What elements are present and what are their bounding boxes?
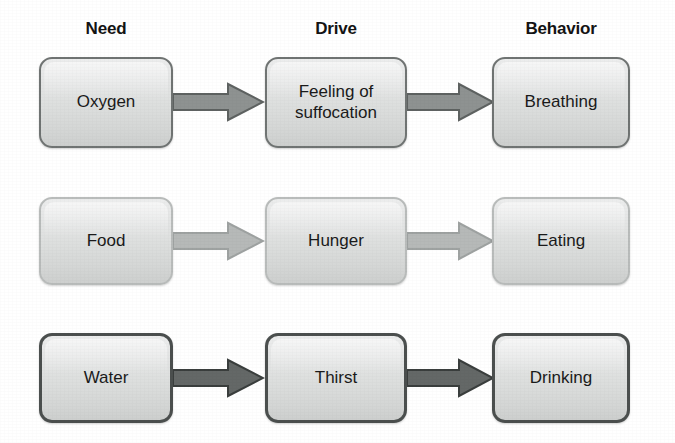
node-label: Hunger bbox=[302, 231, 370, 251]
node-behavior-drinking: Drinking bbox=[492, 333, 630, 423]
arrow-oxygen-to-suffocation bbox=[173, 82, 265, 122]
node-need-oxygen: Oxygen bbox=[39, 57, 173, 148]
node-behavior-breathing: Breathing bbox=[492, 57, 630, 148]
column-header-drive: Drive bbox=[265, 18, 407, 40]
need-drive-behavior-diagram: Need Drive Behavior Oxygen Feeling of su… bbox=[0, 0, 675, 443]
node-label: Feeling of suffocation bbox=[289, 82, 383, 122]
node-label: Breathing bbox=[519, 92, 604, 112]
node-need-water: Water bbox=[39, 333, 173, 423]
node-label: Oxygen bbox=[71, 92, 142, 112]
node-label: Eating bbox=[531, 231, 591, 251]
node-label: Thirst bbox=[309, 368, 364, 388]
node-drive-hunger: Hunger bbox=[265, 197, 407, 285]
node-label: Water bbox=[78, 368, 135, 388]
column-header-behavior: Behavior bbox=[492, 18, 630, 40]
node-label: Drinking bbox=[524, 368, 598, 388]
column-header-need: Need bbox=[39, 18, 173, 40]
node-drive-thirst: Thirst bbox=[265, 333, 407, 423]
arrow-water-to-thirst bbox=[173, 358, 265, 398]
node-need-food: Food bbox=[39, 197, 173, 285]
node-label: Food bbox=[81, 231, 132, 251]
arrow-hunger-to-eating bbox=[407, 221, 495, 261]
arrow-food-to-hunger bbox=[173, 221, 265, 261]
node-drive-suffocation: Feeling of suffocation bbox=[265, 57, 407, 148]
arrow-thirst-to-drinking bbox=[407, 358, 495, 398]
arrow-suffocation-to-breathing bbox=[407, 82, 495, 122]
node-behavior-eating: Eating bbox=[492, 197, 630, 285]
